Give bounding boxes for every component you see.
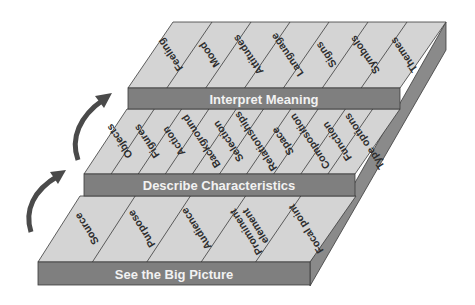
step-interpret-meaning: FeelingMoodAttitudesLanguageSignsSymbols… xyxy=(128,22,446,109)
step3-band-label: Interpret Meaning xyxy=(209,92,318,107)
step2-band-label: Describe Characteristics xyxy=(143,178,295,193)
step-see-big-picture: SourcePurposeAudienceProminentelementFoc… xyxy=(38,196,356,285)
steps-diagram: SourcePurposeAudienceProminentelementFoc… xyxy=(0,0,475,305)
step-describe-characteristics: ObjectsFiguresActionBackgroundSelectionR… xyxy=(84,109,400,196)
diagram-canvas: SourcePurposeAudienceProminentelementFoc… xyxy=(0,0,475,305)
step1-band-label: See the Big Picture xyxy=(115,267,233,282)
arrow-step1-to-step2-icon xyxy=(29,170,66,232)
